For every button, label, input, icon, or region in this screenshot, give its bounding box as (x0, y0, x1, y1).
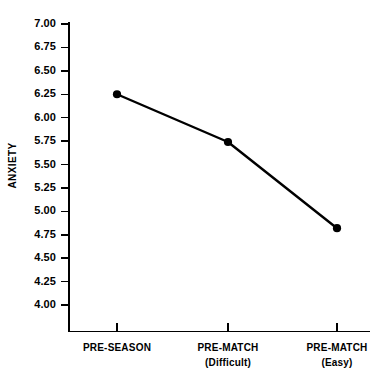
x-tick-label: PRE-SEASON (83, 340, 151, 355)
series-line-anxiety (117, 94, 337, 228)
y-tick-label: 5.00 (34, 204, 56, 216)
data-point-pre-season (113, 90, 121, 98)
series-markers-anxiety (113, 90, 341, 232)
y-tick-mark (61, 257, 68, 259)
y-tick-mark (61, 234, 68, 236)
x-tick-label: PRE-MATCH(Easy) (306, 340, 367, 370)
y-tick-mark (61, 187, 68, 189)
y-axis-spine (68, 22, 70, 332)
y-tick-mark (61, 23, 68, 25)
data-series-layer (0, 0, 387, 385)
x-tick-mark (116, 323, 118, 331)
x-axis-spine (68, 331, 370, 333)
y-tick-mark (61, 94, 68, 96)
data-point-pre-match-difficult (224, 138, 232, 146)
y-tick-mark (61, 47, 68, 49)
y-tick-label: 4.75 (34, 228, 56, 240)
x-tick-label-main: PRE-MATCH (197, 342, 258, 353)
x-tick-mark (227, 323, 229, 331)
anxiety-line-chart: ANXIETY 7.006.756.506.256.005.755.505.25… (0, 0, 387, 385)
y-tick-label: 4.00 (34, 298, 56, 310)
y-tick-label: 6.75 (34, 40, 56, 52)
y-tick-label: 5.75 (34, 134, 56, 146)
y-tick-label: 5.25 (34, 181, 56, 193)
x-tick-label-main: PRE-SEASON (83, 342, 151, 353)
y-tick-label: 6.50 (34, 64, 56, 76)
x-tick-mark (336, 323, 338, 331)
y-tick-mark (61, 140, 68, 142)
y-tick-label: 4.50 (34, 251, 56, 263)
y-tick-label: 7.00 (34, 17, 56, 29)
y-tick-mark (61, 117, 68, 119)
x-tick-label: PRE-MATCH(Difficult) (197, 340, 258, 370)
y-tick-label: 6.25 (34, 87, 56, 99)
y-tick-mark (61, 211, 68, 213)
x-tick-label-sub: (Difficult) (197, 355, 258, 370)
y-tick-mark (61, 304, 68, 306)
y-tick-mark (61, 164, 68, 166)
x-tick-label-sub: (Easy) (306, 355, 367, 370)
y-tick-label: 4.25 (34, 275, 56, 287)
y-tick-label: 5.50 (34, 158, 56, 170)
plot-area: 7.006.756.506.256.005.755.505.255.004.75… (0, 0, 387, 385)
data-point-pre-match-easy (333, 224, 341, 232)
y-tick-mark (61, 281, 68, 283)
y-tick-mark (61, 70, 68, 72)
x-tick-label-main: PRE-MATCH (306, 342, 367, 353)
y-tick-label: 6.00 (34, 111, 56, 123)
